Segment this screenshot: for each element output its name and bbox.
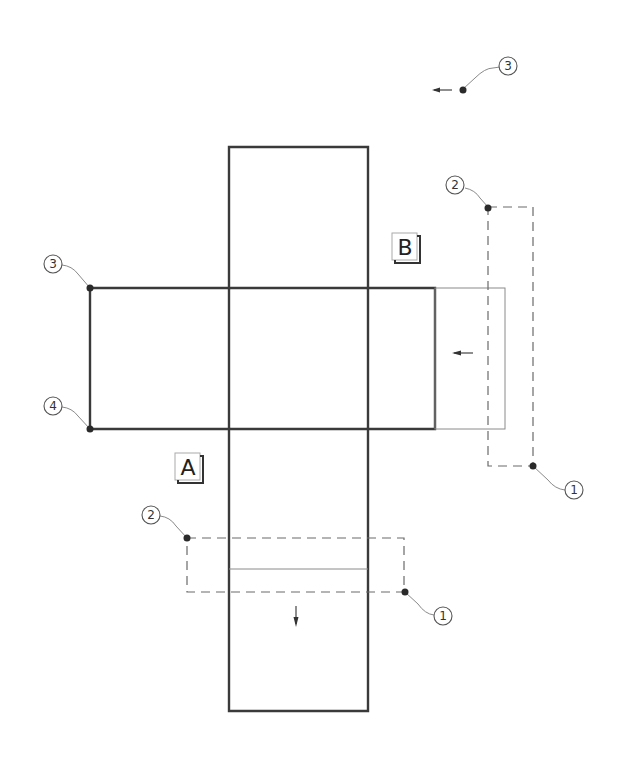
callout-number: 2 [451,178,459,192]
callout-lower-box-bottom: 1 [402,589,453,626]
region-letter: B [397,235,412,260]
bottom-arrow [294,606,299,627]
callout-left-bottom: 4 [44,397,94,433]
callout-number: 3 [504,59,512,73]
callout-right-box-top: 2 [446,176,492,212]
right-extension-panel [435,288,505,429]
anchor-point [87,426,94,433]
anchor-point [184,535,191,542]
anchor-point [87,285,94,292]
callout-number: 4 [49,399,57,413]
callout-number: 2 [147,508,155,522]
callout-lower-box-top: 2 [142,506,191,542]
region-label-b: B [392,233,420,263]
anchor-point [530,463,537,470]
arrow-left-icon [432,88,440,93]
callout-number: 1 [570,483,578,497]
cross-outline [90,147,435,711]
arrow-left-icon [452,351,461,356]
right-panel-arrow [452,351,473,356]
lower-dashed-selection-box [187,538,404,592]
callout-top-right: 3 [460,57,518,94]
region-letter: A [180,455,195,480]
region-label-a: A [175,453,203,483]
callout-number: 3 [49,257,57,271]
anchor-point [485,205,492,212]
top-right-arrow [432,88,452,93]
arrow-down-icon [294,617,299,627]
right-dashed-selection-box [488,207,533,466]
callout-number: 1 [439,609,447,623]
anchor-point [460,87,467,94]
callout-right-box-bottom: 1 [530,463,584,500]
anchor-point [402,589,409,596]
diagram-canvas: 3 2 1 3 4 2 1 [0,0,619,759]
callout-left-top: 3 [44,255,94,292]
